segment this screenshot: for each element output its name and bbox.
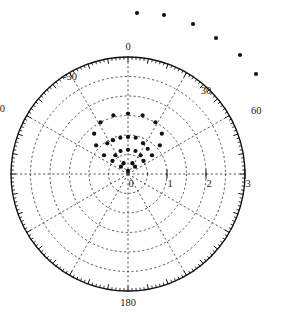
perimeter-tick-150 bbox=[184, 271, 187, 276]
data-point bbox=[102, 153, 106, 157]
perimeter-tick-130 bbox=[214, 246, 218, 250]
data-point bbox=[133, 149, 137, 153]
data-point bbox=[130, 161, 134, 165]
polar-plot-svg: 03060180-30-600123 bbox=[0, 0, 281, 329]
perimeter-tick-50 bbox=[214, 98, 218, 102]
perimeter-tick-320 bbox=[52, 84, 56, 88]
perimeter-tick-230 bbox=[38, 246, 42, 250]
data-point bbox=[141, 141, 145, 145]
data-point bbox=[110, 159, 114, 163]
data-point bbox=[133, 165, 137, 169]
data-point bbox=[141, 113, 145, 117]
data-point bbox=[126, 111, 130, 115]
angle-label-60: 60 bbox=[251, 105, 262, 116]
data-point bbox=[141, 159, 145, 163]
perimeter-tick-120 bbox=[225, 230, 230, 233]
data-point bbox=[150, 153, 154, 157]
polar-chart-figure: 03060180-30-600123 bbox=[0, 0, 281, 329]
angle-label-neg60: -60 bbox=[0, 103, 5, 114]
angle-label-30: 30 bbox=[201, 85, 212, 96]
data-point bbox=[126, 148, 130, 152]
data-point bbox=[160, 132, 164, 136]
perimeter-tick-210 bbox=[69, 271, 72, 276]
perimeter-tick-310 bbox=[38, 98, 42, 102]
data-point bbox=[119, 165, 123, 169]
data-point bbox=[134, 136, 138, 140]
angle-label-0: 0 bbox=[125, 41, 130, 52]
perimeter-tick-30 bbox=[184, 72, 187, 77]
data-point-outlier bbox=[214, 36, 218, 40]
data-point bbox=[122, 161, 126, 165]
data-point bbox=[118, 149, 122, 153]
perimeter-tick-300 bbox=[26, 115, 31, 118]
data-point bbox=[94, 143, 98, 147]
angle-label-neg30: -30 bbox=[63, 71, 77, 82]
radial-tick-label-0: 0 bbox=[128, 178, 133, 189]
radial-tick-label-2: 2 bbox=[206, 178, 211, 189]
data-point bbox=[158, 143, 162, 147]
data-point-outlier bbox=[191, 22, 195, 26]
data-point-outlier bbox=[238, 53, 242, 57]
perimeter-tick-240 bbox=[26, 230, 31, 233]
data-point-outlier bbox=[135, 11, 139, 15]
data-point bbox=[111, 138, 115, 142]
data-point bbox=[139, 153, 143, 157]
data-point bbox=[98, 120, 102, 124]
data-point-outlier bbox=[254, 72, 258, 76]
data-point bbox=[92, 132, 96, 136]
perimeter-tick-60 bbox=[225, 115, 230, 118]
data-point bbox=[126, 135, 130, 139]
data-point bbox=[113, 153, 117, 157]
data-point bbox=[118, 136, 122, 140]
data-point-outlier bbox=[162, 13, 166, 17]
data-point bbox=[153, 120, 157, 124]
axis-labels-layer: 03060180-30-600123 bbox=[0, 41, 262, 308]
data-point bbox=[111, 113, 115, 117]
data-points-layer bbox=[92, 11, 258, 173]
angle-label-180: 180 bbox=[120, 297, 136, 308]
data-point bbox=[126, 169, 130, 173]
perimeter-tick-220 bbox=[52, 260, 56, 264]
radial-tick-label-3: 3 bbox=[245, 178, 250, 189]
grid-spoke--60deg bbox=[27, 116, 128, 175]
grid-spoke--150deg bbox=[70, 174, 129, 275]
data-point bbox=[105, 141, 109, 145]
perimeter-tick-140 bbox=[200, 260, 204, 264]
data-point bbox=[146, 147, 150, 151]
grid-spoke-120deg bbox=[128, 174, 229, 233]
radial-tick-label-1: 1 bbox=[167, 178, 172, 189]
